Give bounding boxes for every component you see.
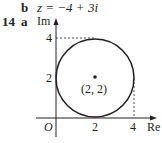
y-axis-label: Im xyxy=(37,14,50,29)
y-tick-2: 2 xyxy=(46,71,52,86)
center-point xyxy=(93,75,97,79)
x-tick-4: 4 xyxy=(130,120,136,135)
origin-label: O xyxy=(44,120,53,135)
center-label: (2, 2) xyxy=(81,82,107,97)
y-tick-4: 4 xyxy=(46,31,52,46)
x-axis-label: Re xyxy=(147,120,160,135)
argand-diagram xyxy=(0,0,162,143)
x-tick-2: 2 xyxy=(92,120,98,135)
